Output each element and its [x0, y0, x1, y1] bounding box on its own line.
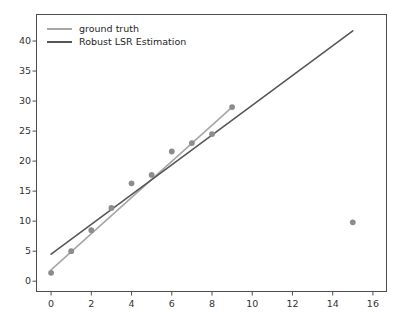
y-tick-label: 25 — [6, 126, 31, 136]
x-tick-label: 8 — [209, 299, 215, 309]
y-tick-label: 10 — [6, 216, 31, 226]
x-tick-label: 4 — [129, 299, 135, 309]
trend-lines — [51, 31, 353, 270]
x-tick-label: 2 — [88, 299, 94, 309]
legend-label-robust-lsr: Robust LSR Estimation — [79, 37, 186, 47]
x-tick-label: 0 — [48, 299, 54, 309]
x-tick-label: 10 — [246, 299, 258, 309]
legend-item-ground-truth: ground truth — [47, 22, 186, 35]
x-tick-label: 12 — [286, 299, 298, 309]
y-tick-label: 5 — [6, 246, 31, 256]
y-tick-label: 30 — [6, 96, 31, 106]
y-tick-label: 0 — [6, 276, 31, 286]
scatter-points — [48, 104, 356, 276]
y-tick-label: 35 — [6, 66, 31, 76]
legend-swatch-robust-lsr — [47, 41, 72, 43]
x-tick-label: 6 — [169, 299, 175, 309]
chart-legend: ground truth Robust LSR Estimation — [43, 19, 192, 51]
chart-figure: 0510152025303540 0246810121416 ground tr… — [0, 0, 403, 324]
tick-marks — [33, 41, 373, 295]
y-tick-label: 15 — [6, 186, 31, 196]
y-tick-label: 40 — [6, 36, 31, 46]
y-tick-label: 20 — [6, 156, 31, 166]
x-tick-label: 14 — [327, 299, 339, 309]
x-tick-label: 16 — [367, 299, 379, 309]
legend-item-robust-lsr: Robust LSR Estimation — [47, 35, 186, 48]
legend-swatch-ground-truth — [47, 28, 72, 30]
legend-label-ground-truth: ground truth — [79, 24, 139, 34]
